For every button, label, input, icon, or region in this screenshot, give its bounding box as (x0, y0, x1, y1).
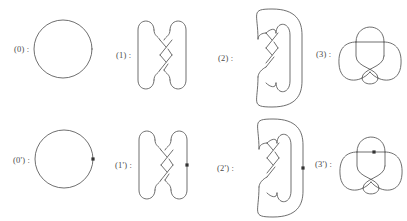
knot-diagram-clasped-loop (236, 5, 308, 111)
knot-diagram-trefoil-based (335, 126, 407, 202)
basepoint-marker (373, 150, 376, 153)
knot-diagram-trefoil (334, 16, 406, 92)
knot-panel-2-label: (2) : (218, 54, 236, 63)
knot-panel-0: (0) : (14, 18, 94, 80)
knot-panel-3-label: (3) : (316, 50, 334, 59)
knot-diagram-twisted-braid-based (135, 124, 193, 206)
knot-panel-2: (2) : (218, 5, 308, 111)
knot-panel-0p-label: (0') : (13, 156, 33, 165)
knot-panel-1p-label: (1') : (115, 161, 135, 170)
knot-panel-3p-label: (3') : (315, 160, 335, 169)
knot-panel-3: (3) : (316, 16, 406, 92)
knot-diagram-twisted-braid (134, 14, 190, 96)
knot-diagram-unknot (32, 18, 94, 80)
knot-panel-0-label: (0) : (14, 45, 32, 54)
knot-panel-1p: (1') : (115, 124, 193, 206)
knot-panel-2p: (2') : (217, 115, 311, 221)
knot-diagram-figure: (0) : (1) : (0, 0, 407, 221)
knot-diagram-clasped-loop-based (237, 115, 311, 221)
knot-panel-2p-label: (2') : (217, 164, 237, 173)
basepoint-marker (92, 157, 95, 160)
knot-diagram-unknot-based (33, 128, 97, 192)
knot-panel-3p: (3') : (315, 126, 407, 202)
knot-panel-0p: (0') : (13, 128, 97, 192)
basepoint-marker (302, 166, 305, 169)
basepoint-marker (186, 163, 189, 166)
knot-panel-1-label: (1) : (116, 51, 134, 60)
knot-panel-1: (1) : (116, 14, 190, 96)
